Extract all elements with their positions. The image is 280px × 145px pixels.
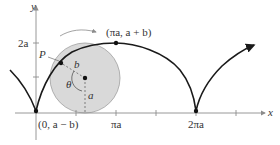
- cusp-2pia-point: [194, 109, 198, 113]
- point-p-label: P: [38, 48, 46, 60]
- x-tick-label-pia: πa: [111, 118, 122, 130]
- x-tick-label-2pia: 2πa: [188, 118, 204, 130]
- cycloid-curve: [10, 43, 254, 111]
- peak-point: [114, 41, 118, 45]
- radius-b-label: b: [74, 58, 80, 70]
- cusp-start-point: [34, 109, 38, 113]
- start-point-label: (0, a − b): [38, 118, 79, 131]
- circle-center: [83, 76, 87, 80]
- y-axis-label: y: [30, 0, 36, 12]
- peak-label: (πa, a + b): [106, 26, 152, 39]
- point-p: [59, 61, 63, 65]
- cycloid-diagram: y x 2a πa 2πa P b a θ (πa, a + b) (0, a …: [0, 0, 280, 145]
- radius-a-label: a: [88, 89, 94, 101]
- angle-theta-label: θ: [66, 78, 72, 90]
- y-tick-label-2a: 2a: [18, 37, 29, 49]
- rolling-direction-arrow: [60, 30, 96, 36]
- x-axis-label: x: [267, 106, 273, 118]
